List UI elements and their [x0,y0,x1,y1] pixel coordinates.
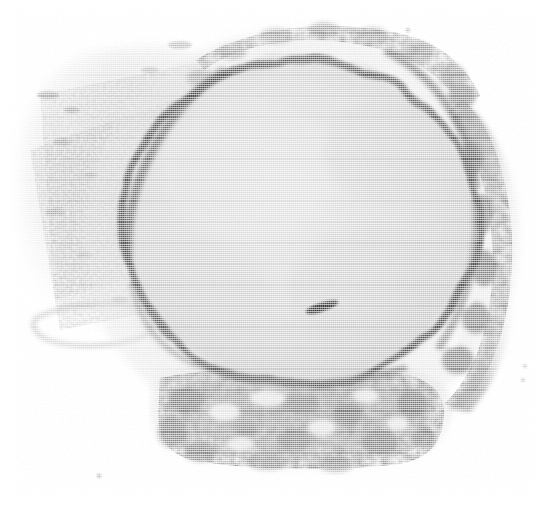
isolated-specks [97,28,527,478]
intranuclear-inclusion [304,297,339,316]
cytoplasm-upper-left [13,41,245,346]
paper-background [0,0,550,507]
speck-right-lower [521,378,524,381]
speck-top-right [406,28,410,32]
halftone-dot-break [0,0,550,507]
nucleus [122,57,478,387]
speck-lower-left [97,474,101,478]
speck-right-upper [523,364,526,367]
halftone-line-screen [0,0,550,507]
cytoplasm-right [442,84,520,412]
micrograph-figure [0,0,550,507]
page-margin-vignette [0,0,550,507]
micrograph-image [0,0,550,507]
cytoplasm-halo [82,30,518,440]
nucleoplasm [122,57,478,387]
paper-grain [0,0,550,507]
cytoplasm-lower [150,361,452,474]
cytoplasm-upper-rim [187,22,480,104]
nuclear-envelope [122,52,478,385]
